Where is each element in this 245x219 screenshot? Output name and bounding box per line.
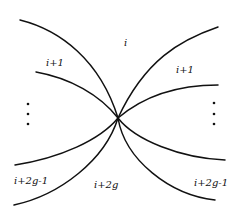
sector-label: i+2g-1	[194, 177, 228, 188]
sector-labels-group: ii+1i+1i+2g-1i+2gi+2g-1	[14, 37, 228, 190]
sector-label: i	[124, 37, 127, 48]
curve-lower-left-top	[15, 118, 118, 165]
ellipsis-dot	[27, 123, 30, 126]
ellipsis-dot	[213, 123, 216, 126]
ellipsis-dot	[27, 113, 30, 116]
curve-lower-left-bottom	[14, 118, 118, 205]
ellipsis-dot	[27, 103, 30, 106]
sector-label: i+1	[46, 57, 64, 68]
ellipsis-dot	[213, 113, 216, 116]
sector-diagram: ii+1i+1i+2g-1i+2gi+2g-1	[0, 0, 245, 219]
sector-label: i+2g-1	[14, 175, 48, 186]
ellipsis-dot	[213, 102, 216, 105]
sector-label: i+2g	[94, 179, 118, 190]
curve-upper-left-bottom	[36, 72, 118, 118]
curve-upper-right-top	[118, 27, 218, 118]
sector-label: i+1	[176, 64, 194, 75]
